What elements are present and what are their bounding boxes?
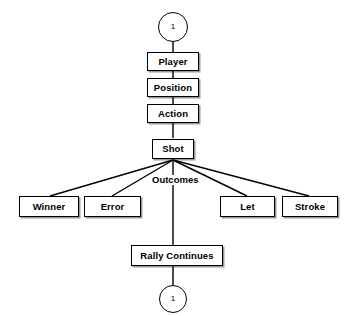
node-outcome-rally-continues-label: Rally Continues [140, 251, 213, 261]
node-position[interactable]: Position [147, 78, 199, 97]
entry-connector[interactable]: 1 [158, 12, 188, 42]
exit-connector[interactable]: 1 [159, 285, 187, 313]
node-position-label: Position [154, 83, 192, 93]
entry-connector-label: 1 [171, 23, 175, 31]
node-shot[interactable]: Shot [152, 139, 194, 159]
node-outcome-let[interactable]: Let [220, 196, 275, 217]
branch-label-outcomes: Outcomes [150, 175, 200, 185]
node-outcome-error[interactable]: Error [84, 196, 141, 217]
node-player-label: Player [158, 57, 187, 67]
node-outcome-winner-label: Winner [33, 202, 66, 212]
node-outcome-winner[interactable]: Winner [19, 196, 79, 217]
node-outcome-stroke-label: Stroke [295, 202, 325, 212]
flowchart-diagram: 1 Player Position Action Shot Outcomes W… [0, 0, 351, 316]
node-shot-label: Shot [162, 144, 184, 154]
node-player[interactable]: Player [147, 52, 199, 71]
node-outcome-let-label: Let [240, 202, 255, 212]
node-action[interactable]: Action [147, 104, 199, 123]
node-outcome-rally-continues[interactable]: Rally Continues [131, 245, 223, 266]
node-action-label: Action [158, 109, 188, 119]
exit-connector-label: 1 [171, 295, 175, 303]
node-outcome-error-label: Error [101, 202, 125, 212]
node-layer: 1 Player Position Action Shot Outcomes W… [0, 0, 351, 316]
node-outcome-stroke[interactable]: Stroke [282, 196, 338, 217]
